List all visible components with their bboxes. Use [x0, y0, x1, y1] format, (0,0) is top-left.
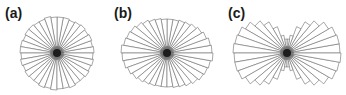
- center-halo: [50, 46, 64, 60]
- center-halo: [160, 46, 174, 60]
- rose-diagrams: [0, 0, 346, 95]
- rose-plot-b: [121, 19, 213, 88]
- rose-plot-a: [20, 17, 94, 90]
- rose-plot-c: [233, 21, 341, 85]
- center-halo: [280, 46, 294, 60]
